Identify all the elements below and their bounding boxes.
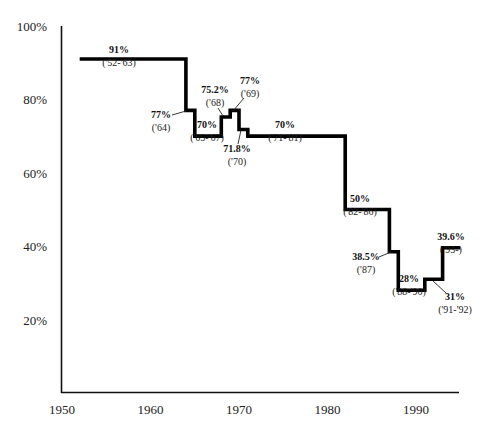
data-label: 77%('69) bbox=[233, 75, 260, 111]
y-tick-label: 40% bbox=[23, 239, 47, 254]
data-label: 70%('71-'81) bbox=[268, 119, 302, 144]
data-label-value: 70% bbox=[275, 119, 295, 130]
data-label-period: ('88-'90) bbox=[392, 286, 426, 298]
data-label: 39.6%('93-) bbox=[437, 231, 465, 256]
y-tick-label: 100% bbox=[17, 19, 48, 34]
x-tick-label: 1950 bbox=[49, 402, 75, 417]
leader-line bbox=[379, 252, 391, 257]
data-label-period: ('93-) bbox=[440, 244, 462, 256]
data-label-value: 77% bbox=[151, 109, 171, 120]
data-label: 75.2%('68) bbox=[201, 84, 229, 116]
data-label-period: ('65-'67) bbox=[190, 132, 224, 144]
leader-line bbox=[172, 111, 186, 115]
data-label: 77%('64) bbox=[151, 109, 186, 134]
x-tick-label: 1970 bbox=[226, 402, 252, 417]
leader-line bbox=[433, 281, 446, 293]
data-label-period: ('70) bbox=[228, 156, 246, 168]
x-axis-tick-labels: 19501960197019801990 bbox=[49, 402, 429, 417]
step-line-chart: 20%40%60%80%100% 19501960197019801990 91… bbox=[0, 0, 493, 436]
y-axis-tick-labels: 20%40%60%80%100% bbox=[17, 19, 48, 328]
data-label-value: 31% bbox=[445, 291, 465, 302]
data-label-value: 71.8% bbox=[223, 143, 251, 154]
data-label-period: ('91-'92) bbox=[438, 304, 472, 316]
data-label-value: 70% bbox=[197, 119, 217, 130]
data-label-period: ('68) bbox=[206, 97, 224, 109]
x-tick-label: 1980 bbox=[315, 402, 341, 417]
x-tick-label: 1960 bbox=[138, 402, 164, 417]
data-annotations: 91%('52-'63)77%('64)70%('65-'67)75.2%('6… bbox=[102, 44, 472, 316]
data-label-value: 91% bbox=[109, 44, 129, 55]
y-tick-label: 60% bbox=[23, 166, 47, 181]
leader-line bbox=[238, 130, 241, 144]
data-label-period: ('71-'81) bbox=[268, 132, 302, 144]
x-tick-label: 1990 bbox=[403, 402, 429, 417]
data-label-value: 39.6% bbox=[437, 231, 465, 242]
data-label-value: 38.5% bbox=[352, 251, 380, 262]
y-tick-label: 80% bbox=[23, 92, 47, 107]
data-label-value: 75.2% bbox=[201, 84, 229, 95]
step-series-line bbox=[80, 59, 461, 290]
data-label-value: 50% bbox=[350, 193, 370, 204]
data-label-value: 77% bbox=[240, 75, 260, 86]
data-label-period: ('87) bbox=[357, 264, 375, 276]
y-tick-label: 20% bbox=[23, 313, 47, 328]
data-label-value: 28% bbox=[399, 273, 419, 284]
data-label: 38.5%('87) bbox=[352, 251, 391, 276]
data-label: 91%('52-'63) bbox=[102, 44, 136, 69]
data-label: 50%('82-'86) bbox=[343, 193, 377, 218]
data-label-period: ('52-'63) bbox=[102, 57, 136, 69]
data-label: 31%('91-'92) bbox=[433, 281, 472, 316]
leader-line bbox=[218, 108, 223, 116]
data-label-period: ('64) bbox=[152, 122, 170, 134]
data-label-period: ('82-'86) bbox=[343, 206, 377, 218]
